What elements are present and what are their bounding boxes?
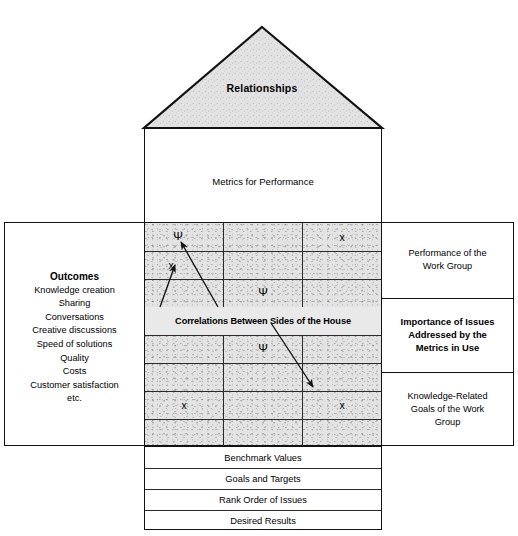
- foundation-divider: [145, 510, 381, 511]
- outcomes-title: Outcomes: [6, 270, 143, 284]
- outcomes-content: Outcomes Knowledge creation Sharing Conv…: [6, 270, 143, 406]
- grid-row-divider: [145, 419, 381, 420]
- list-item: Creative discussions: [6, 324, 143, 338]
- grid-row-divider: [145, 279, 381, 280]
- grid-cell-r2-c2: [224, 251, 303, 279]
- grid-cell-r8-c3: [303, 419, 381, 447]
- x-mark: x: [339, 400, 344, 411]
- right-panel-section-3: Knowledge-Related Goals of the Work Grou…: [382, 372, 513, 447]
- grid-row: xx: [145, 391, 381, 419]
- grid-row: Ψx: [145, 223, 381, 251]
- list-item: Customer satisfaction: [6, 379, 143, 393]
- correlation-grid: ΨxxΨΨxx: [144, 222, 382, 446]
- roof-label: Relationships: [144, 80, 380, 96]
- right-panel-section-2: Importance of Issues Addressed by the Me…: [382, 298, 513, 373]
- foundation-row-4: Desired Results: [145, 510, 381, 531]
- grid-row-divider: [145, 251, 381, 252]
- list-item: Knowledge creation: [6, 284, 143, 298]
- grid-cell-r5-c1: [145, 335, 224, 363]
- grid-row: [145, 419, 381, 447]
- house-of-metrics-diagram: Relationships Metrics for Performance Ou…: [0, 0, 518, 536]
- grid-cell-r3-c3: [303, 279, 381, 307]
- metrics-for-performance-label: Metrics for Performance: [144, 174, 382, 188]
- grid-cell-r2-c1: x: [145, 251, 224, 279]
- grid-cell-r3-c2: Ψ: [224, 279, 303, 307]
- foundation-row-2: Goals and Targets: [145, 468, 381, 489]
- grid-row: x: [145, 251, 381, 279]
- grid-row: Ψ: [145, 335, 381, 363]
- foundation-row-3: Rank Order of Issues: [145, 489, 381, 510]
- list-item: Conversations: [6, 311, 143, 325]
- grid-cell-r5-c2: Ψ: [224, 335, 303, 363]
- x-mark: x: [339, 232, 344, 243]
- right-panel-divider: [382, 372, 513, 373]
- list-item: Costs: [6, 365, 143, 379]
- grid-cell-r2-c3: [303, 251, 381, 279]
- grid-cell-r6-c2: [224, 363, 303, 391]
- grid-cell-r1-c3: x: [303, 223, 381, 251]
- correlations-banner-label: Correlations Between Sides of the House: [144, 314, 382, 328]
- list-item: Speed of solutions: [6, 338, 143, 352]
- list-item: etc.: [6, 392, 143, 406]
- grid-cell-r7-c1: x: [145, 391, 224, 419]
- grid-cell-r7-c3: x: [303, 391, 381, 419]
- grid-cell-r1-c1: Ψ: [145, 223, 224, 251]
- grid-row-divider: [145, 391, 381, 392]
- foundation-panel: Benchmark ValuesGoals and TargetsRank Or…: [144, 446, 382, 530]
- psi-mark: Ψ: [173, 231, 183, 243]
- grid-cell-r7-c2: [224, 391, 303, 419]
- x-mark: x: [168, 260, 173, 271]
- right-panel: Performance of the Work GroupImportance …: [381, 222, 514, 446]
- foundation-divider: [145, 468, 381, 469]
- grid-row-divider: [145, 335, 381, 336]
- grid-cell-r3-c1: [145, 279, 224, 307]
- grid-cell-r8-c2: [224, 419, 303, 447]
- grid-row-divider: [145, 363, 381, 364]
- x-mark: x: [181, 400, 186, 411]
- grid-cell-r6-c1: [145, 363, 224, 391]
- psi-mark: Ψ: [258, 343, 268, 355]
- grid-cell-r5-c3: [303, 335, 381, 363]
- grid-row: [145, 363, 381, 391]
- right-panel-section-1: Performance of the Work Group: [382, 223, 513, 298]
- psi-mark: Ψ: [258, 287, 268, 299]
- grid-cell-r6-c3: [303, 363, 381, 391]
- outcomes-list: Knowledge creation Sharing Conversations…: [6, 284, 143, 406]
- grid-cell-r1-c2: [224, 223, 303, 251]
- list-item: Sharing: [6, 297, 143, 311]
- grid-row: Ψ: [145, 279, 381, 307]
- foundation-row-1: Benchmark Values: [145, 447, 381, 468]
- right-panel-divider: [382, 298, 513, 299]
- list-item: Quality: [6, 352, 143, 366]
- foundation-divider: [145, 489, 381, 490]
- grid-cell-r8-c1: [145, 419, 224, 447]
- roof-polygon: [144, 27, 382, 128]
